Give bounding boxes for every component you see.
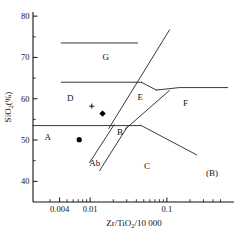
x-axis-ticks xyxy=(50,198,220,203)
field-label-F: F xyxy=(183,98,188,108)
chart-svg: 4050607080 0.0040.010.1 AAbBCDEFG Zr/TiO… xyxy=(0,0,239,236)
y-tick-label: 40 xyxy=(21,176,30,186)
y-axis-ticks xyxy=(33,16,38,181)
y-tick-label: 50 xyxy=(21,135,30,145)
boundary-E-G-diagonal xyxy=(109,30,170,129)
y-tick-label: 70 xyxy=(21,52,30,62)
field-label-D: D xyxy=(67,93,74,103)
field-label-A: A xyxy=(44,132,51,142)
x-tick-label: 0.01 xyxy=(83,204,98,214)
boundary-C-F-diagonal xyxy=(125,90,169,129)
x-axis-tick-labels: 0.0040.010.1 xyxy=(50,204,172,214)
boundary-C-right-diagonal xyxy=(141,125,197,155)
boundary-E-F-upper xyxy=(141,82,156,90)
field-label-C: C xyxy=(144,161,150,171)
field-label-Ab: Ab xyxy=(89,158,100,168)
field-label-B: B xyxy=(117,127,123,137)
x-tick-label: 0.1 xyxy=(162,204,173,214)
field-labels: AAbBCDEFG xyxy=(44,52,188,171)
y-axis-tick-labels: 4050607080 xyxy=(21,11,30,186)
y-tick-label: 80 xyxy=(21,11,30,21)
boundary-Ab-left-diagonal xyxy=(89,125,114,163)
marker-sample-diamond xyxy=(99,110,105,116)
boundary-F-horizontal xyxy=(156,88,227,90)
marker-sample-plus xyxy=(89,104,94,109)
axes-group xyxy=(33,12,234,202)
field-label-E: E xyxy=(138,92,144,102)
panel-label: (B) xyxy=(206,168,218,178)
x-axis-title: Zr/TiO2/10 000 xyxy=(106,218,162,229)
field-boundary-lines xyxy=(33,30,228,171)
y-tick-label: 60 xyxy=(21,94,30,104)
boundary-B-C-diagonal xyxy=(100,127,128,171)
data-markers xyxy=(77,104,106,143)
marker-sample-circle xyxy=(77,137,82,142)
x-tick-label: 0.004 xyxy=(50,204,70,214)
geochemical-classification-chart: 4050607080 0.0040.010.1 AAbBCDEFG Zr/TiO… xyxy=(0,0,239,236)
field-label-G: G xyxy=(103,52,110,62)
y-axis-title: SiO2(%) xyxy=(3,92,14,123)
